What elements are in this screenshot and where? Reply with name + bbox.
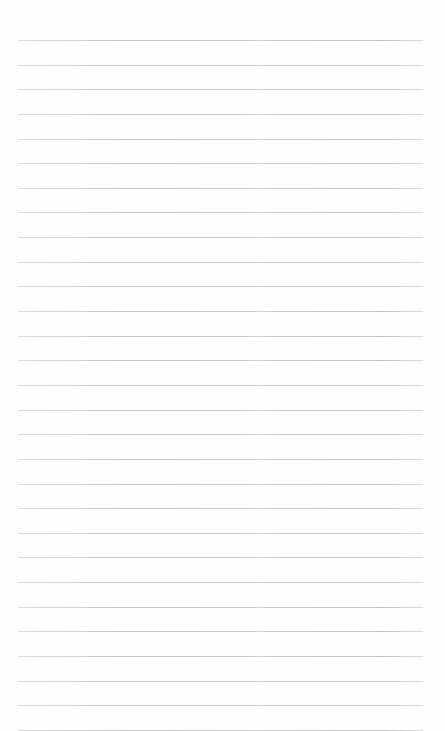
ruled-line bbox=[18, 607, 423, 608]
ruled-line bbox=[18, 410, 423, 411]
ruled-line bbox=[18, 459, 423, 460]
ruled-line bbox=[18, 557, 423, 558]
ruled-line bbox=[18, 237, 423, 238]
ruled-line bbox=[18, 262, 423, 263]
ruled-line bbox=[18, 40, 423, 41]
ruled-line bbox=[18, 385, 423, 386]
ruled-line bbox=[18, 336, 423, 337]
ruled-line bbox=[18, 434, 423, 435]
ruled-line bbox=[18, 484, 423, 485]
ruled-line bbox=[18, 286, 423, 287]
lined-paper-sheet bbox=[0, 0, 445, 731]
ruled-line bbox=[18, 360, 423, 361]
ruled-line bbox=[18, 212, 423, 213]
ruled-line bbox=[18, 65, 423, 66]
ruled-line bbox=[18, 163, 423, 164]
ruled-line bbox=[18, 705, 423, 706]
ruled-line bbox=[18, 139, 423, 140]
ruled-line bbox=[18, 188, 423, 189]
ruled-line bbox=[18, 508, 423, 509]
ruled-line bbox=[18, 311, 423, 312]
ruled-line bbox=[18, 656, 423, 657]
ruled-line bbox=[18, 114, 423, 115]
ruled-line bbox=[18, 631, 423, 632]
ruled-line bbox=[18, 533, 423, 534]
ruled-line bbox=[18, 582, 423, 583]
ruled-line bbox=[18, 681, 423, 682]
ruled-line bbox=[18, 89, 423, 90]
